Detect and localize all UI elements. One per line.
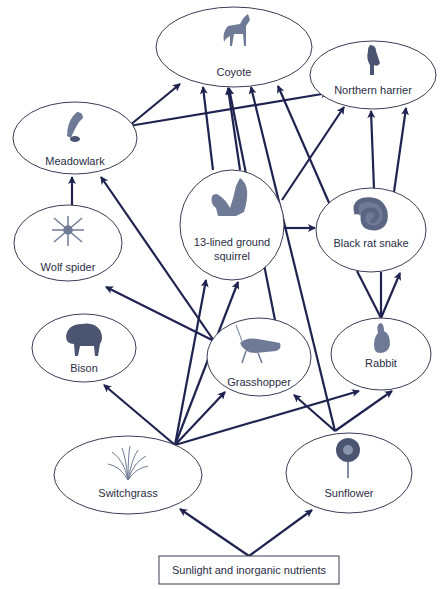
node-label-ground-squirrel-line2: squirrel [214,250,250,262]
node-label-rabbit: Rabbit [365,357,397,369]
node-ground-squirrel[interactable]: 13-lined ground squirrel [180,170,284,280]
edge-squirrel-coyote-a [203,87,213,170]
source-label: Sunlight and inorganic nutrients [172,564,327,576]
edge-snake-coyote [278,86,330,205]
node-meadowlark[interactable]: Meadowlark [13,102,137,174]
node-label-bison: Bison [70,362,98,374]
source-node[interactable]: Sunlight and inorganic nutrients [159,556,339,584]
edge-sunflower-rabbit [335,391,392,431]
node-bison[interactable]: Bison [32,314,136,382]
edge-squirrel-harrier [282,107,344,200]
edge-source-sunflower [249,510,312,556]
edge-rabbit-snake-a [357,271,381,318]
node-label-sunflower: Sunflower [325,487,374,499]
node-northern-harrier[interactable]: Northern harrier [310,41,436,109]
node-label-grasshopper: Grasshopper [227,376,291,388]
edge-switchgrass-squirrel-a [175,280,206,445]
node-black-rat-snake[interactable]: Black rat snake [316,188,426,272]
node-wolf-spider[interactable]: Wolf spider [14,205,122,281]
node-label-switchgrass: Switchgrass [98,487,158,499]
node-label-ground-squirrel-line1: 13-lined ground [194,236,270,248]
node-coyote[interactable]: Coyote [156,7,312,87]
node-label-meadowlark: Meadowlark [45,155,105,167]
node-switchgrass[interactable]: Switchgrass [54,436,202,514]
node-rabbit[interactable]: Rabbit [331,318,431,390]
food-web-diagram: Coyote Northern harrier Meadowlark 13-li… [0,0,441,589]
edge-source-switchgrass [180,509,249,556]
node-label-northern-harrier: Northern harrier [334,84,412,96]
node-sunflower[interactable]: Sunflower [286,433,412,513]
edge-snake-harrier-b [394,108,406,192]
edge-snake-harrier-a [371,111,374,189]
node-label-coyote: Coyote [217,66,252,78]
node-label-black-rat-snake: Black rat snake [333,237,408,249]
edge-rabbit-snake-c [381,273,400,318]
node-label-wolf-spider: Wolf spider [41,261,96,273]
node-grasshopper[interactable]: Grasshopper [207,318,311,396]
